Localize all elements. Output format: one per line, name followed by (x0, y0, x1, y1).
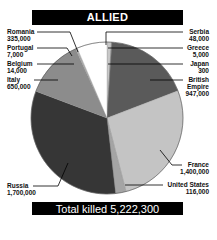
label-france: France 1,400,000 (180, 162, 209, 176)
label-russia: Russia 1,700,000 (7, 183, 36, 197)
leader-romania (37, 32, 78, 52)
label-japan: Japan 300 (190, 61, 209, 75)
label-serbia: Serbia 48,000 (189, 29, 209, 43)
total-killed-caption: Total killed 5,222,300 (32, 202, 183, 215)
label-portugal: Portugal 7,000 (7, 45, 33, 59)
label-united-states: United States 116,000 (167, 182, 209, 196)
label-british-empire: British Empire 947,000 (186, 77, 210, 97)
label-italy: Italy 650,000 (7, 77, 31, 91)
pie-slices (31, 42, 183, 194)
label-romania: Romania 335,000 (7, 29, 34, 43)
label-greece: Greece 5,000 (187, 45, 209, 59)
label-belgium: Belgium 14,000 (7, 61, 33, 75)
